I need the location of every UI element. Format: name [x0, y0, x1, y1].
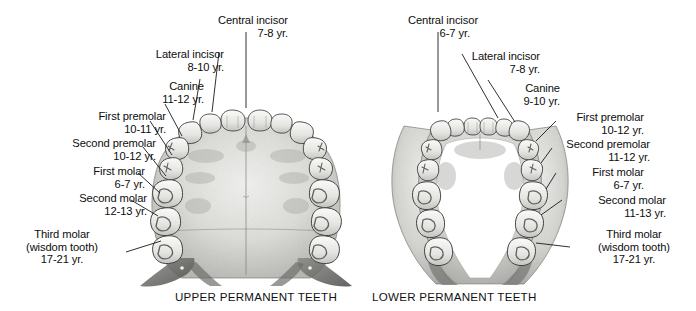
lower-arch-illustration [392, 118, 568, 285]
label-lower-second-premolar: Second premolar 11-12 yr. [552, 138, 650, 163]
label-name: Second premolar [72, 137, 156, 150]
label-name: First molar [566, 166, 644, 179]
label-age: 10-11 yr. [98, 123, 166, 136]
label-name: First molar [93, 165, 145, 178]
label-name: Second premolar [552, 138, 650, 151]
label-age: 6-7 yr. [408, 27, 470, 40]
label-age: 11-12 yr. [552, 151, 650, 164]
label-age: 10-12 yr. [72, 150, 156, 163]
label-upper-central-incisor: Central incisor 7-8 yr. [218, 14, 288, 39]
label-lower-third-molar: Third molar (wisdom tooth) 17-21 yr. [578, 228, 690, 266]
label-subtitle: (wisdom tooth) [6, 241, 118, 254]
label-lower-second-molar: Second molar 11-13 yr. [574, 194, 666, 219]
label-name: Second molar [574, 194, 666, 207]
label-upper-second-molar: Second molar 12-13 yr. [79, 192, 147, 217]
label-upper-second-premolar: Second premolar 10-12 yr. [72, 137, 156, 162]
label-age: 9-10 yr. [500, 95, 560, 108]
label-lower-first-molar: First molar 6-7 yr. [566, 166, 644, 191]
label-upper-canine: Canine 11-12 yr. [162, 80, 204, 105]
label-name: Canine [162, 80, 204, 93]
label-age: 6-7 yr. [93, 178, 145, 191]
label-age: 11-12 yr. [162, 93, 204, 106]
label-age: 17-21 yr. [6, 253, 118, 266]
label-lower-central-incisor: Central incisor 6-7 yr. [408, 14, 470, 39]
label-age: 11-13 yr. [574, 207, 666, 220]
label-name: Third molar [6, 228, 118, 241]
label-age: 12-13 yr. [79, 205, 147, 218]
label-upper-lateral-incisor: Lateral incisor 8-10 yr. [156, 48, 224, 73]
label-name: Second molar [79, 192, 147, 205]
label-lower-canine: Canine 9-10 yr. [500, 82, 560, 107]
label-name: First premolar [558, 111, 644, 124]
caption-upper-permanent-teeth: UPPER PERMANENT TEETH [175, 290, 337, 303]
label-name: Lateral incisor [468, 50, 540, 63]
label-name: Central incisor [218, 14, 288, 27]
label-subtitle: (wisdom tooth) [578, 241, 690, 254]
caption-lower-permanent-teeth: LOWER PERMANENT TEETH [372, 290, 537, 303]
label-age: 7-8 yr. [218, 27, 288, 40]
upper-arch-illustration [140, 110, 352, 287]
label-age: 17-21 yr. [578, 253, 690, 266]
label-name: Third molar [578, 228, 690, 241]
label-name: Canine [500, 82, 560, 95]
label-upper-first-premolar: First premolar 10-11 yr. [98, 110, 166, 135]
label-upper-first-molar: First molar 6-7 yr. [93, 165, 145, 190]
label-upper-third-molar: Third molar (wisdom tooth) 17-21 yr. [6, 228, 118, 266]
label-lower-first-premolar: First premolar 10-12 yr. [558, 111, 644, 136]
label-age: 8-10 yr. [156, 61, 224, 74]
label-lower-lateral-incisor: Lateral incisor 7-8 yr. [468, 50, 540, 75]
dental-eruption-diagram: Central incisor 7-8 yr. Lateral incisor … [0, 0, 696, 311]
label-age: 10-12 yr. [558, 124, 644, 137]
label-name: First premolar [98, 110, 166, 123]
label-name: Central incisor [408, 14, 470, 27]
label-age: 6-7 yr. [566, 179, 644, 192]
label-age: 7-8 yr. [468, 63, 540, 76]
label-name: Lateral incisor [156, 48, 224, 61]
